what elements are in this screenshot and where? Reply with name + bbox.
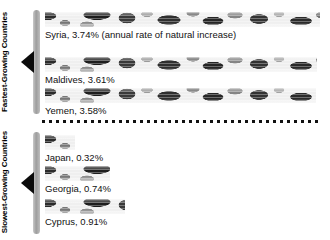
bar-syria <box>45 12 320 27</box>
bar-row-georgia: Georgia, 0.74% <box>45 166 111 195</box>
bar-label-yemen: Yemen, 3.58% <box>45 104 316 117</box>
bar-label-syria: Syria, 3.74% (annual rate of natural inc… <box>45 28 320 41</box>
bar-row-cyprus: Cyprus, 0.91% <box>45 199 125 228</box>
group-bracket-slowest-growing <box>33 132 40 234</box>
bar-row-yemen: Yemen, 3.58% <box>45 88 316 117</box>
bar-label-georgia: Georgia, 0.74% <box>45 182 111 195</box>
group-pointer-fastest-growing <box>21 51 34 73</box>
group-bracket-fastest-growing <box>33 10 40 114</box>
group-caption-fastest-growing: Fastest-Growing Countries <box>0 6 10 118</box>
bar-japan <box>45 135 75 150</box>
group-caption-slowest-growing: Slowest-Growing Countries <box>0 126 10 238</box>
bar-row-maldives: Maldives, 3.61% <box>45 57 317 86</box>
population-growth-chart: Fastest-Growing Countries Slowest-Growin… <box>0 0 330 240</box>
bar-row-japan: Japan, 0.32% <box>45 135 103 164</box>
bar-label-maldives: Maldives, 3.61% <box>45 73 317 86</box>
bar-cyprus <box>45 199 125 214</box>
group-divider <box>42 120 322 123</box>
bar-row-syria: Syria, 3.74% (annual rate of natural inc… <box>45 12 320 41</box>
bar-georgia <box>45 166 110 181</box>
bar-maldives <box>45 57 317 72</box>
bar-yemen <box>45 88 316 103</box>
group-pointer-slowest-growing <box>21 172 34 194</box>
bar-label-cyprus: Cyprus, 0.91% <box>45 215 125 228</box>
bar-label-japan: Japan, 0.32% <box>45 151 103 164</box>
